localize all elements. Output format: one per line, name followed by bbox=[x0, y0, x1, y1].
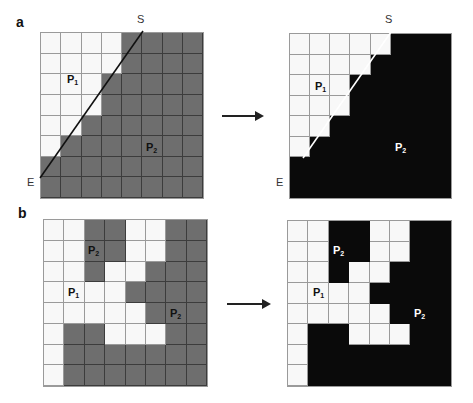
grid-cell-filled bbox=[391, 178, 411, 199]
grid-cell-free bbox=[349, 262, 369, 283]
grid-cell-filled bbox=[142, 54, 162, 75]
grid-cell-free bbox=[146, 324, 166, 345]
grid-cell-filled bbox=[187, 220, 207, 241]
grid-cell-filled bbox=[431, 34, 451, 55]
grid-cell-filled bbox=[85, 345, 105, 366]
grid-cell-filled bbox=[349, 221, 369, 242]
grid-cell-free bbox=[44, 365, 64, 386]
end-point-label: E bbox=[27, 176, 34, 188]
grid-cell-filled bbox=[329, 262, 349, 283]
grid-cell-free bbox=[371, 34, 391, 55]
grid-cell-filled bbox=[411, 116, 431, 137]
grid-cell-filled bbox=[187, 262, 207, 283]
panel-b-letter: b bbox=[18, 205, 27, 221]
grid-cell-filled bbox=[308, 324, 328, 345]
grid-cell-filled bbox=[64, 345, 84, 366]
grid-cell-filled bbox=[329, 365, 349, 386]
grid-cell-filled bbox=[142, 116, 162, 137]
grid-cell-filled bbox=[410, 221, 430, 242]
grid-cell-filled bbox=[166, 365, 186, 386]
grid-cell-free bbox=[44, 303, 64, 324]
grid-cell-free bbox=[310, 34, 330, 55]
grid-cell-free bbox=[102, 54, 122, 75]
grid-cell-free bbox=[64, 303, 84, 324]
grid-cell-filled bbox=[187, 345, 207, 366]
transform-arrow-b bbox=[227, 303, 269, 305]
grid-cell-filled bbox=[411, 75, 431, 96]
grid-cell-filled bbox=[390, 304, 410, 325]
grid-cell-filled bbox=[126, 345, 146, 366]
grid-cell-filled bbox=[105, 365, 125, 386]
grid-cell-filled bbox=[41, 157, 61, 178]
grid-cell-filled bbox=[183, 74, 203, 95]
grid-cell-free bbox=[85, 282, 105, 303]
grid-cell-filled bbox=[166, 324, 186, 345]
grid-cell-free bbox=[41, 74, 61, 95]
grid-cell-free bbox=[390, 324, 410, 345]
grid-cell-filled bbox=[163, 136, 183, 157]
grid-cell-free bbox=[85, 303, 105, 324]
grid-cell-filled bbox=[146, 365, 166, 386]
grid-cell-filled bbox=[350, 75, 370, 96]
grid-cell-free bbox=[105, 324, 125, 345]
grid-cell-filled bbox=[166, 220, 186, 241]
grid-cell-filled bbox=[310, 137, 330, 158]
grid-cell-free bbox=[105, 303, 125, 324]
grid-cell-filled bbox=[370, 345, 390, 366]
grid-cell-free bbox=[290, 137, 310, 158]
grid-cell-filled bbox=[166, 262, 186, 283]
grid-cell-free bbox=[350, 34, 370, 55]
grid-cell-filled bbox=[391, 75, 411, 96]
grid-cell-free bbox=[330, 55, 350, 76]
grid-cell-filled bbox=[187, 303, 207, 324]
grid-cell-filled bbox=[142, 177, 162, 198]
grid-cell-free bbox=[310, 116, 330, 137]
grid-cell-filled bbox=[290, 157, 310, 178]
grid-cell-free bbox=[288, 304, 308, 325]
grid-cell-filled bbox=[371, 116, 391, 137]
grid-cell-filled bbox=[410, 324, 430, 345]
grid-cell-free bbox=[390, 242, 410, 263]
grid-cell-filled bbox=[329, 324, 349, 345]
grid-cell-filled bbox=[102, 74, 122, 95]
grid-cell-filled bbox=[391, 116, 411, 137]
grid-cell-free bbox=[44, 345, 64, 366]
grid-cell-filled bbox=[187, 365, 207, 386]
grid-cell-filled bbox=[431, 75, 451, 96]
grid-cell-filled bbox=[163, 157, 183, 178]
grid-cell-filled bbox=[330, 116, 350, 137]
grid-cell-filled bbox=[411, 157, 431, 178]
grid-cell-filled bbox=[126, 282, 146, 303]
grid-cell-free bbox=[44, 324, 64, 345]
grid-cell-free bbox=[82, 54, 102, 75]
grid-cell-filled bbox=[431, 157, 451, 178]
grid-cell-free bbox=[310, 96, 330, 117]
grid-cell-filled bbox=[82, 116, 102, 137]
grid-cell-filled bbox=[146, 303, 166, 324]
grid-cell-free bbox=[308, 221, 328, 242]
grid-cell-filled bbox=[105, 241, 125, 262]
grid-cell-free bbox=[288, 345, 308, 366]
grid-cell-filled bbox=[391, 34, 411, 55]
grid-cell-free bbox=[288, 324, 308, 345]
region-label-p1: P1 bbox=[67, 73, 78, 86]
grid-cell-filled bbox=[122, 116, 142, 137]
grid-cell-filled bbox=[431, 365, 451, 386]
grid-cell-filled bbox=[82, 157, 102, 178]
grid-cell-filled bbox=[350, 116, 370, 137]
grid-cell-free bbox=[102, 33, 122, 54]
start-point-label: S bbox=[385, 13, 392, 25]
grid-cell-filled bbox=[142, 74, 162, 95]
end-point-label: E bbox=[276, 176, 283, 188]
grid-cell-free bbox=[41, 54, 61, 75]
grid-cell-free bbox=[126, 303, 146, 324]
grid-cell-filled bbox=[187, 282, 207, 303]
grid-cell-free bbox=[330, 96, 350, 117]
grid-cell-free bbox=[44, 282, 64, 303]
grid-cell-filled bbox=[122, 177, 142, 198]
grid-cell-free bbox=[308, 304, 328, 325]
grid-cell-free bbox=[308, 242, 328, 263]
grid-cell-free bbox=[310, 55, 330, 76]
grid-cell-filled bbox=[163, 116, 183, 137]
region-label-p2: P2 bbox=[414, 307, 425, 320]
